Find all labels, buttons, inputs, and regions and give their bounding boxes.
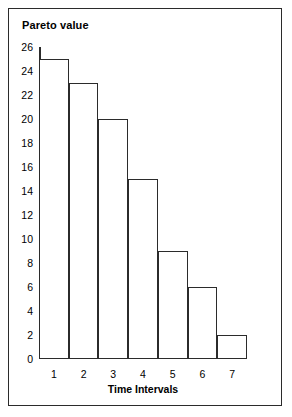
y-axis-tick-label: 20 [21, 113, 33, 125]
bar [39, 59, 69, 359]
y-axis-tick-label: 6 [27, 281, 33, 293]
x-axis-tick-label: 2 [81, 368, 87, 380]
bar [158, 251, 188, 359]
bar [217, 335, 247, 359]
y-axis-tick-label: 24 [21, 65, 33, 77]
bar [188, 287, 218, 359]
y-axis-tick-label: 16 [21, 161, 33, 173]
bar [69, 83, 99, 359]
x-axis-tick-label: 4 [140, 368, 146, 380]
x-axis-tick-label: 3 [110, 368, 116, 380]
y-axis-tick-label: 10 [21, 233, 33, 245]
y-axis-tick-label: 12 [21, 209, 33, 221]
y-axis-tick-label: 4 [27, 305, 33, 317]
y-axis-tick-label: 8 [27, 257, 33, 269]
chart-figure-frame: Pareto value 02468101214161820222426 123… [8, 8, 282, 406]
bar-series [39, 47, 247, 359]
x-axis-title: Time Intervals [39, 383, 247, 395]
y-axis-tick-label: 0 [27, 353, 33, 365]
bar [128, 179, 158, 359]
x-axis-tick-label: 5 [170, 368, 176, 380]
plot-area: 02468101214161820222426 1234567 [39, 47, 247, 359]
y-axis-tick-label: 22 [21, 89, 33, 101]
x-axis-tick-label: 6 [200, 368, 206, 380]
y-axis-tick-label: 2 [27, 329, 33, 341]
bar [98, 119, 128, 359]
y-axis-tick-label: 14 [21, 185, 33, 197]
x-axis-tick-label: 1 [51, 368, 57, 380]
y-axis-tick-label: 18 [21, 137, 33, 149]
x-axis-tick-label: 7 [229, 368, 235, 380]
y-axis-tick-label: 26 [21, 41, 33, 53]
chart-title: Pareto value [22, 19, 89, 31]
